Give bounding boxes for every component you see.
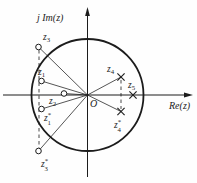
real-axis-label: Re(z) (168, 100, 191, 112)
imaginary-axis-arrowhead (85, 7, 90, 16)
real-axis-arrowhead (184, 93, 193, 98)
radial-line-z3c (39, 95, 88, 151)
origin-label: O (90, 98, 97, 109)
marker-label-z5: z5 (127, 80, 136, 91)
zero-marker-z1c (39, 106, 45, 112)
plot-svg: z3z1z2z*1z*3z4z5z*4j Im(z)Re(z)O (0, 0, 197, 183)
pole-zero-diagram: z3z1z2z*1z*3z4z5z*4j Im(z)Re(z)O (0, 0, 197, 183)
marker-label-z1: z1 (37, 67, 45, 78)
imaginary-axis-label: j Im(z) (35, 12, 64, 24)
marker-label-z4: z4 (106, 64, 115, 75)
zero-marker-z2 (61, 91, 67, 97)
zero-marker-z3 (36, 44, 42, 50)
zero-marker-z3c (36, 148, 42, 154)
radial-line-z4 (88, 77, 122, 95)
marker-label-z2: z2 (48, 96, 57, 107)
marker-label-z3c: z*3 (40, 157, 49, 171)
marker-label-z4c: z*4 (113, 118, 122, 132)
marker-label-z3: z3 (42, 32, 51, 43)
zero-marker-z1 (39, 78, 45, 84)
marker-label-z1c: z*1 (43, 111, 52, 125)
